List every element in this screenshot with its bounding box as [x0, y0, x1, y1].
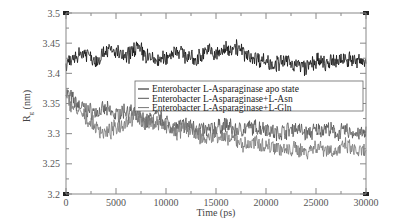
y-tick-label: 3.2 [48, 189, 61, 200]
series-line-0 [66, 39, 366, 75]
x-tick-label: 5000 [106, 197, 126, 208]
x-axis-title: Time (ps) [197, 207, 236, 219]
y-tick-label: 3.4 [48, 68, 61, 79]
legend-label: Enterobacter L-Asparaginase+L-Gln [152, 103, 292, 113]
x-tick-label: 25000 [304, 197, 329, 208]
svg-text:Rg (nm): Rg (nm) [21, 90, 35, 122]
y-tick-label: 3.25 [43, 158, 61, 169]
y-tick-label: 3.5 [48, 8, 61, 19]
y-tick-label: 3.3 [48, 128, 61, 139]
x-tick-label: 30000 [354, 197, 379, 208]
legend: Enterobacter L-Asparaginase apo stateEnt… [135, 81, 363, 113]
y-axis-title-unit: (nm) [21, 90, 33, 112]
rg-time-chart: 0500010000150002000025000300003.23.253.3… [0, 0, 402, 221]
y-tick-label: 3.35 [43, 98, 61, 109]
y-axis-title: Rg (nm) [21, 90, 35, 122]
x-tick-label: 20000 [254, 197, 279, 208]
x-tick-label: 0 [64, 197, 69, 208]
y-tick-label: 3.45 [43, 38, 61, 49]
x-tick-label: 10000 [154, 197, 179, 208]
